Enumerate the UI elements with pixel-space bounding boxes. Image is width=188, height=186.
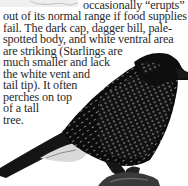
nutcracker-bird-photo [0,0,188,186]
